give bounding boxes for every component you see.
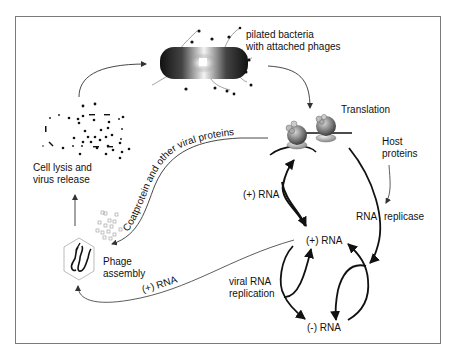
cell-lysis-label-line1: Cell lysis and — [33, 162, 92, 174]
plus-rna-top-label: (+) RNA — [243, 189, 279, 201]
coatprotein-particles — [96, 211, 122, 240]
host-proteins-label-line1: Host — [382, 136, 403, 148]
arrow-replication-left-up — [284, 249, 311, 297]
rna-replicase-label-part1: RNA — [356, 211, 377, 223]
plusrna-edge-label: (+) RNA — [141, 274, 179, 295]
arrow-hostproteins-to-replicase — [386, 165, 390, 203]
arrow-ribosome-to-plusrna — [282, 182, 306, 226]
bacterium-illustration — [152, 27, 253, 96]
viral-rna-replication-label-line1: viral RNA — [229, 276, 271, 288]
lysis-debris-illustration — [42, 103, 130, 160]
bacteria-label-line1: pilated bacteria — [246, 29, 314, 41]
viral-rna-replication-label-line2: replication — [229, 288, 275, 300]
phage-assembly-label-line1: Phage — [103, 256, 132, 268]
rna-replicase-label-part2: replicase — [384, 211, 424, 223]
arrow-replication-right-up — [348, 244, 368, 320]
bacteria-label-line2: with attached phages — [246, 41, 341, 53]
plus-rna-center-label: (+) RNA — [306, 235, 342, 247]
host-proteins-label-line2: proteins — [382, 148, 418, 160]
ribosomes-illustration — [270, 114, 352, 155]
cell-lysis-label-line2: virus release — [33, 174, 90, 186]
arrow-translation-to-replicase — [349, 148, 380, 263]
translation-label: Translation — [341, 104, 390, 116]
diagram-canvas: Coatprotein and other viral proteins (+)… — [0, 0, 452, 359]
phage-assembly-illustration — [64, 238, 94, 280]
arrow-bacteria-to-translation — [268, 66, 310, 108]
arrow-lysis-to-bacteria — [79, 64, 146, 97]
arrow-replication-right-down — [336, 265, 366, 320]
minus-rna-label: (-) RNA — [307, 322, 341, 334]
coatprotein-label: Coatprotein and other viral proteins — [120, 126, 234, 233]
phage-assembly-label-line2: assembly — [103, 268, 145, 280]
